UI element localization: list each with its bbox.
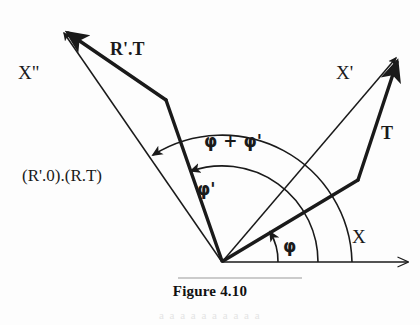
- label-x-prime: X': [336, 63, 353, 82]
- phi-arc: [270, 232, 278, 262]
- figure-caption: Figure 4.10: [0, 283, 420, 300]
- label-x-double-prime: X": [18, 63, 39, 82]
- x-prime-ray: [222, 58, 396, 262]
- label-r-prime-t: R'.T: [110, 40, 145, 58]
- label-t-vector: T: [381, 124, 393, 142]
- label-phi-prime: φ': [197, 181, 216, 198]
- label-phi-sum: φ + φ': [204, 133, 262, 150]
- figure-container: X" R'.T (R'.0).(R.T) φ + φ' φ' φ X' T X …: [0, 0, 420, 325]
- x-double-prime-ray: [64, 33, 222, 262]
- scan-smudge-artifact: a a a a a a a a a a: [0, 309, 420, 319]
- label-phi: φ: [283, 238, 296, 255]
- label-x-axis: X: [352, 227, 366, 246]
- label-composed-vector: (R'.0).(R.T): [22, 167, 102, 184]
- left-translation-polyline: [68, 33, 222, 261]
- scan-rule-artifact: [178, 277, 302, 279]
